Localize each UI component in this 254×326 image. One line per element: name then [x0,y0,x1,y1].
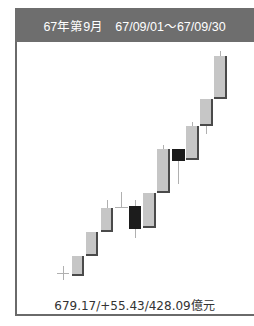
candle-body-down [172,149,185,161]
candle-body-up [101,208,113,232]
candle-body-down [129,206,141,229]
candle-body-up [157,149,170,193]
chart-summary: 679.17/+55.43/428.09億元 [15,296,254,313]
candle-body-up [86,232,98,256]
candle-body-up [186,126,199,160]
candle-wick [121,192,122,207]
candle-body-up [214,56,227,99]
candle-body-up [143,193,156,228]
candle-body-up [200,99,213,126]
candle-body-up [72,256,84,276]
candlestick-plot [0,0,254,326]
candle-doji [115,207,128,208]
candle-doji [57,273,69,274]
